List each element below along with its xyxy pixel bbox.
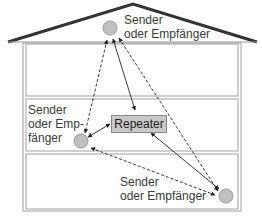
label-line: oder Empfänger <box>124 27 210 41</box>
repeater-box: Repeater <box>111 115 167 133</box>
label-line: fänger <box>28 131 84 145</box>
node-top-label: Sender oder Empfänger <box>124 13 210 41</box>
node-bottom-right-label: Sender oder Empfänger <box>120 175 206 203</box>
node-bottom-right <box>219 189 233 203</box>
label-line: Sender <box>28 103 84 117</box>
label-line: oder Empfänger <box>120 189 206 203</box>
node-left-label: Sender oder Emp- fänger <box>28 103 84 145</box>
label-line: oder Emp- <box>28 117 84 131</box>
label-line: Sender <box>124 13 210 27</box>
node-top <box>103 21 117 35</box>
label-line: Sender <box>120 175 206 189</box>
